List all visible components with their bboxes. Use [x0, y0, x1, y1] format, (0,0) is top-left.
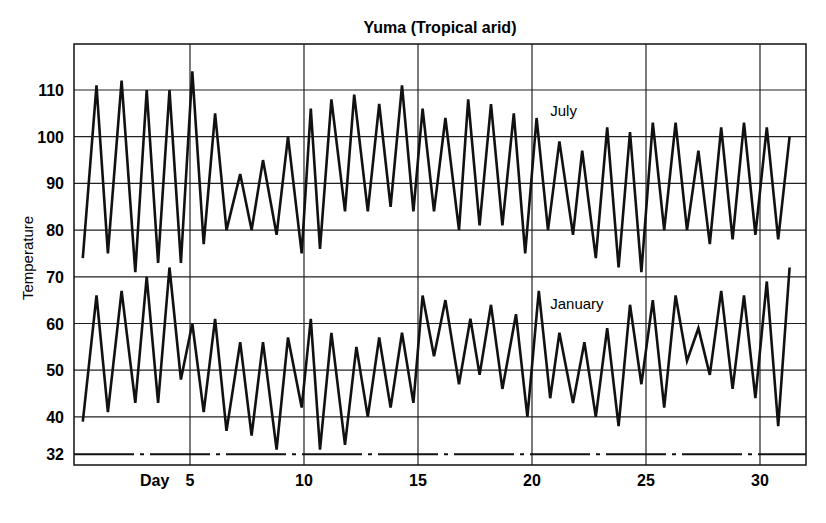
july-series-label: July	[550, 102, 577, 119]
y-tick-label: 60	[46, 316, 64, 333]
x-tick-label: 25	[637, 472, 655, 489]
y-tick-label: 110	[38, 82, 64, 99]
y-axis-label: Temperature	[19, 216, 36, 300]
january-series-label: January	[550, 295, 604, 312]
x-tick-label: 10	[295, 472, 313, 489]
x-tick-label: 5	[186, 472, 195, 489]
y-tick-label: 80	[46, 222, 64, 239]
x-tick-label: 30	[751, 472, 769, 489]
y-tick-label: 40	[46, 409, 64, 426]
temperature-chart: Yuma (Tropical arid) 3240506070809010011…	[0, 0, 826, 523]
y-tick-label: 70	[46, 269, 64, 286]
y-tick-label: 50	[46, 362, 64, 379]
chart-title: Yuma (Tropical arid)	[364, 19, 517, 36]
grid-lines	[74, 44, 806, 465]
x-axis-label: Day	[140, 472, 169, 489]
y-axis-ticks: 32405060708090100110	[37, 82, 64, 463]
x-tick-label: 15	[409, 472, 427, 489]
july-series-line	[83, 71, 790, 272]
y-tick-label: 100	[37, 129, 64, 146]
january-series-line	[83, 268, 790, 450]
y-tick-label: 90	[46, 175, 64, 192]
x-tick-label: 20	[523, 472, 541, 489]
y-tick-label: 32	[46, 446, 64, 463]
plot-frame	[74, 44, 806, 465]
x-axis-ticks: 51015202530	[186, 472, 769, 489]
